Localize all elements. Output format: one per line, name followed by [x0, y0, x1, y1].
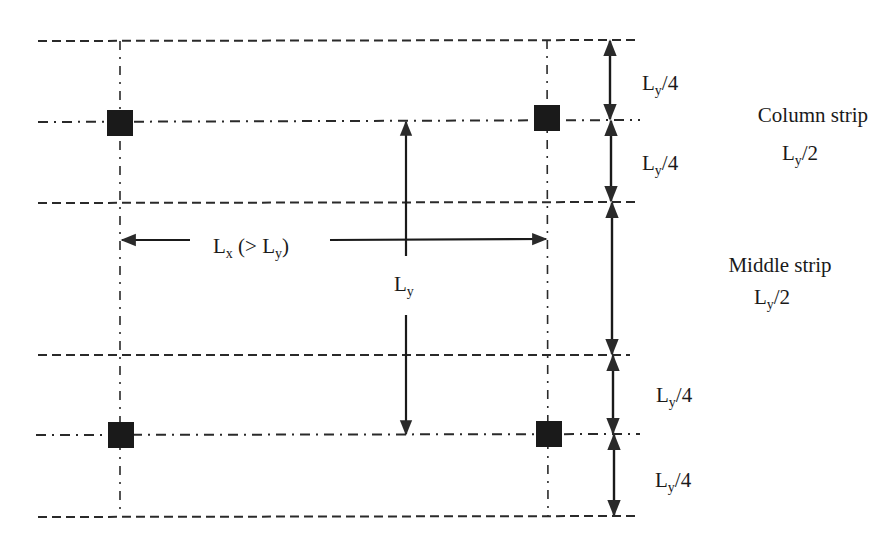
- dim-label-1: Ly/4: [642, 71, 679, 98]
- middle-strip-width: Ly/2: [754, 285, 790, 312]
- column-center-lines: [36, 120, 640, 435]
- boundary-line-upper: [38, 202, 636, 203]
- ly-label: Ly: [394, 272, 414, 299]
- column-bottom-left: [108, 422, 134, 448]
- column-center-lines-vertical: [120, 40, 548, 516]
- dim-label-2: Ly/4: [642, 151, 679, 178]
- dim-label-3: Ly/4: [656, 383, 693, 410]
- boundary-line-bottom: [38, 516, 636, 517]
- strip-diagram: Lx (> Ly) Ly Ly/4 Ly/4 Ly/4 Ly/4 Column …: [0, 0, 884, 545]
- strip-width-dimensions: [610, 41, 614, 515]
- column-strip-label: Column strip: [758, 103, 868, 127]
- lx-label: Lx (> Ly): [213, 234, 289, 261]
- column-top-right: [534, 105, 560, 131]
- middle-strip-label: Middle strip: [728, 253, 831, 277]
- columns: [107, 105, 562, 448]
- lx-arrow-right: [330, 239, 546, 240]
- dim-label-4: Ly/4: [655, 468, 692, 495]
- column-bottom-right: [536, 421, 562, 447]
- column-strip-width: Ly/2: [782, 141, 818, 168]
- lx-dimension: [122, 239, 546, 240]
- column-top-left: [107, 110, 133, 136]
